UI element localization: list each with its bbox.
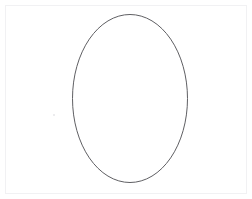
ellipse-shape-svg	[0, 0, 252, 199]
drawing-surface	[0, 0, 252, 199]
stray-speck-mark	[53, 114, 55, 116]
ellipse-shape[interactable]	[73, 15, 188, 183]
drawing-canvas	[0, 0, 252, 199]
